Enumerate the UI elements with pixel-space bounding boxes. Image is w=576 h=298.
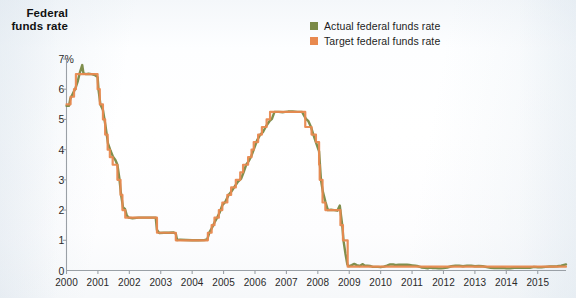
- plot-area: [0, 0, 576, 298]
- series-actual: [67, 65, 567, 268]
- federal-funds-rate-chart: Federal funds rate Actual federal funds …: [0, 0, 576, 298]
- series-target: [67, 74, 567, 267]
